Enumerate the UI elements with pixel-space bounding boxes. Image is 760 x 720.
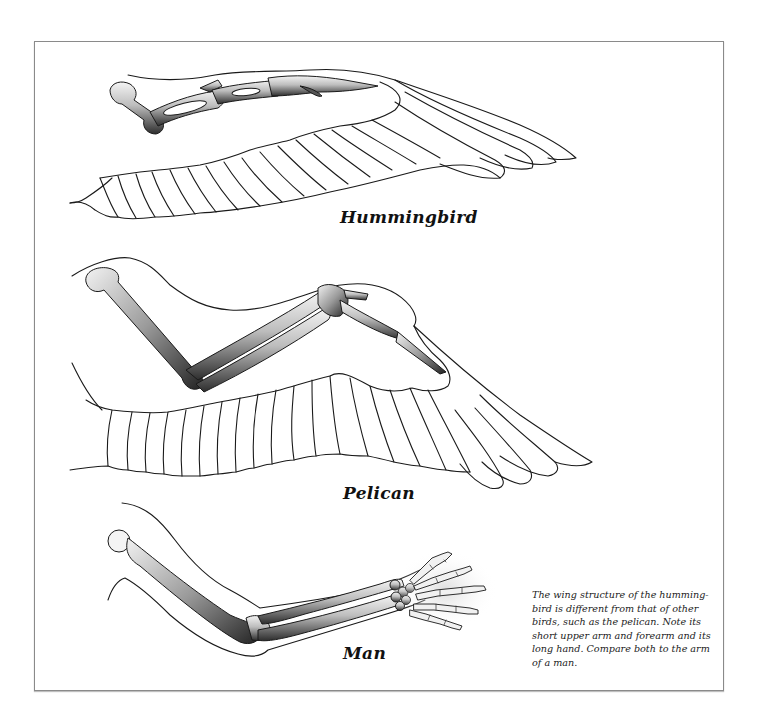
label-hummingbird: Hummingbird xyxy=(340,207,478,227)
human-bones xyxy=(108,530,415,644)
label-pelican: Pelican xyxy=(343,483,415,503)
pelican-bones xyxy=(86,268,446,392)
figure-caption: The wing structure of the humming-bird i… xyxy=(532,588,718,670)
hummingbird-bones xyxy=(110,76,378,134)
label-man: Man xyxy=(343,643,386,663)
